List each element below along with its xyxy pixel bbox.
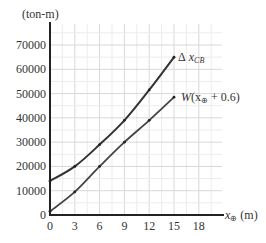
x-axis-label: x⊕ (m) [224, 208, 258, 223]
series-w-label: W(x⊕ + 0.6) [181, 90, 240, 105]
x-tick-label: 3 [72, 219, 78, 233]
y-axis-label: (ton-m) [22, 7, 59, 21]
y-tick-label: 50000 [16, 87, 46, 101]
chart: (ton-m) x⊕ (m) 0100002000030000400005000… [0, 0, 266, 243]
data-point-marker [98, 143, 101, 146]
x-tick-label: 9 [121, 219, 127, 233]
data-point-marker [73, 191, 76, 194]
data-point-marker [173, 96, 176, 99]
data-point-marker [123, 119, 126, 122]
series-delta-xcb-label: ΔxCB [178, 50, 204, 65]
x-tick-labels: 0369121518 [47, 219, 205, 233]
data-point-marker [148, 119, 151, 122]
data-point-marker [173, 56, 176, 59]
y-tick-label: 40000 [16, 111, 46, 125]
x-tick-label: 0 [47, 219, 53, 233]
grid [50, 24, 222, 215]
y-tick-label: 60000 [16, 62, 46, 76]
y-tick-labels: 010000200003000040000500006000070000 [16, 38, 46, 222]
x-tick-label: 15 [168, 219, 180, 233]
y-tick-label: 70000 [16, 38, 46, 52]
data-point-marker [49, 210, 52, 213]
y-tick-label: 0 [40, 208, 46, 222]
x-tick-label: 18 [193, 219, 205, 233]
data-point-marker [73, 165, 76, 168]
y-tick-label: 10000 [16, 184, 46, 198]
data-point-marker [123, 141, 126, 144]
x-tick-label: 12 [143, 219, 155, 233]
data-point-marker [49, 180, 52, 183]
data-point-marker [148, 89, 151, 92]
x-tick-label: 6 [97, 219, 103, 233]
y-tick-label: 20000 [16, 159, 46, 173]
data-point-marker [98, 165, 101, 168]
y-tick-label: 30000 [16, 135, 46, 149]
